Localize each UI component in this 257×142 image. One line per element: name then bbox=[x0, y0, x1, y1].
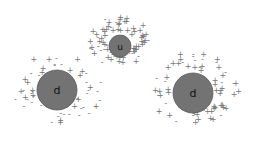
sea-particle: + bbox=[139, 31, 146, 40]
sea-particle: + bbox=[46, 55, 53, 64]
sea-particle: + bbox=[177, 50, 184, 59]
sea-particle: + bbox=[93, 102, 100, 111]
sea-particle: + bbox=[220, 71, 227, 80]
quark-diagram: +----++---+++-++-++---++----------+-++-+… bbox=[0, 0, 257, 142]
sea-particle: + bbox=[212, 76, 219, 85]
sea-particle: - bbox=[99, 78, 102, 87]
sea-particle: - bbox=[22, 102, 25, 111]
sea-particle: - bbox=[14, 95, 17, 104]
sea-particle: + bbox=[31, 55, 38, 64]
quark-label: d bbox=[190, 87, 197, 100]
sea-particle: - bbox=[96, 87, 99, 96]
sea-particle: - bbox=[82, 103, 85, 112]
sea-particle: - bbox=[192, 50, 195, 59]
sea-particle: - bbox=[68, 110, 71, 119]
sea-particle: + bbox=[121, 17, 128, 26]
quark-label: u bbox=[117, 42, 123, 52]
sea-particle: - bbox=[157, 91, 160, 100]
sea-particle: - bbox=[147, 36, 150, 45]
sea-particle: - bbox=[31, 87, 34, 96]
sea-particle: + bbox=[235, 87, 242, 96]
sea-particle: - bbox=[50, 118, 53, 127]
sea-particle: + bbox=[116, 57, 123, 66]
sea-particle: - bbox=[26, 95, 29, 104]
sea-particle: + bbox=[166, 111, 173, 120]
sea-particle: + bbox=[74, 55, 81, 64]
sea-particle: - bbox=[78, 111, 81, 120]
sea-particles: +----++---+++-++-++---++----------+-++-+… bbox=[14, 13, 242, 127]
sea-particle: + bbox=[117, 26, 124, 35]
sea-particle: + bbox=[212, 103, 219, 112]
sea-particle: - bbox=[175, 117, 178, 126]
sea-particle: - bbox=[164, 99, 167, 108]
sea-particle: - bbox=[157, 107, 160, 116]
sea-particle: + bbox=[175, 59, 182, 68]
sea-particle: - bbox=[38, 71, 41, 80]
sea-particle: - bbox=[59, 109, 62, 118]
sea-particle: + bbox=[165, 88, 172, 97]
sea-particle: + bbox=[77, 71, 84, 80]
sea-particle: + bbox=[96, 37, 103, 46]
sea-particle: + bbox=[133, 57, 140, 66]
quark-right-d: d bbox=[173, 73, 213, 113]
sea-particle: - bbox=[201, 55, 204, 64]
sea-particle: + bbox=[89, 43, 96, 52]
diagram-canvas: +----++---+++-++-++---++----------+-++-+… bbox=[0, 0, 257, 142]
sea-particle: - bbox=[87, 109, 90, 118]
sea-particle: - bbox=[101, 58, 104, 67]
sea-particle: + bbox=[90, 27, 97, 36]
sea-particle: + bbox=[108, 55, 115, 64]
sea-particle: - bbox=[85, 69, 88, 78]
quark-left-d: d bbox=[37, 70, 77, 110]
sea-particle: - bbox=[155, 74, 158, 83]
sea-particle: - bbox=[215, 58, 218, 67]
sea-particle: + bbox=[217, 86, 224, 95]
sea-particle: - bbox=[220, 111, 223, 120]
sea-particle: + bbox=[165, 63, 172, 72]
sea-particle: - bbox=[63, 110, 66, 119]
sea-particle: + bbox=[131, 27, 138, 36]
quark-top-u: u bbox=[109, 35, 131, 57]
sea-particle: + bbox=[131, 47, 138, 56]
sea-particle: - bbox=[53, 60, 56, 69]
sea-particle: + bbox=[223, 104, 230, 113]
sea-particle: - bbox=[60, 60, 63, 69]
quark-label: d bbox=[54, 84, 61, 97]
sea-particle: - bbox=[109, 23, 112, 32]
sea-particle: - bbox=[87, 86, 90, 95]
sea-particle: - bbox=[30, 69, 33, 78]
sea-particle: + bbox=[233, 79, 240, 88]
